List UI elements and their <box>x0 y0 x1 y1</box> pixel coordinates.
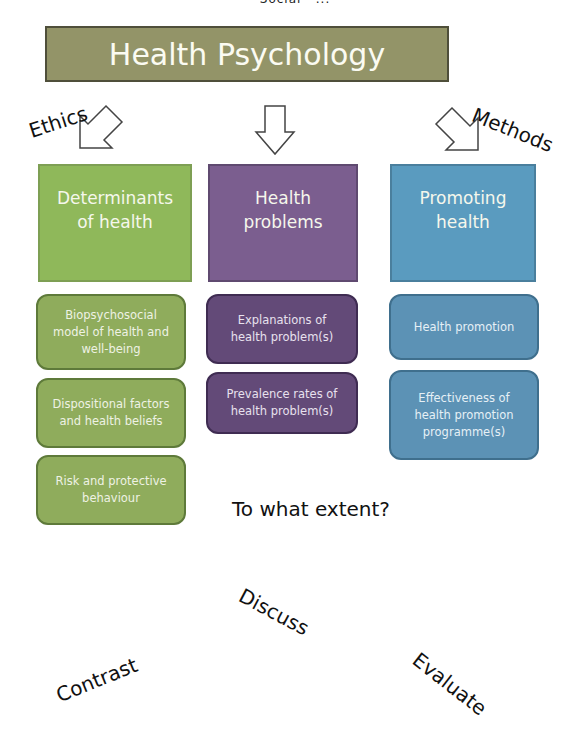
category-title-line: of health <box>40 210 190 234</box>
arrow-down-icon <box>254 104 296 156</box>
command-term-discuss: Discuss <box>235 584 313 641</box>
topic-line: Effectiveness of <box>414 390 513 407</box>
category-determinants-of-health: Determinants of health <box>38 164 192 282</box>
category-title-line: problems <box>210 210 356 234</box>
diagram-title: Health Psychology <box>45 26 449 82</box>
topic-line: Health promotion <box>414 319 515 336</box>
topic-line: programme(s) <box>414 424 513 441</box>
category-promoting-health: Promoting health <box>390 164 536 282</box>
topic-line: health problem(s) <box>231 329 334 346</box>
category-title-line: Health <box>210 186 356 210</box>
topic-line: Risk and protective <box>55 473 166 490</box>
clipped-top-text: Social · ... <box>170 0 420 4</box>
command-term-evaluate: Evaluate <box>408 648 492 721</box>
topic-line: behaviour <box>55 490 166 507</box>
topic-line: Dispositional factors <box>52 396 169 413</box>
topic-line: health problem(s) <box>227 403 338 420</box>
topic-line: Prevalence rates of <box>227 386 338 403</box>
topic-line: well-being <box>53 341 169 358</box>
category-title-line: health <box>392 210 534 234</box>
topic-dispositional-factors: Dispositional factors and health beliefs <box>36 378 186 448</box>
topic-biopsychosocial-model: Biopsychosocial model of health and well… <box>36 294 186 370</box>
category-title-line: Determinants <box>40 186 190 210</box>
topic-line: health promotion <box>414 407 513 424</box>
topic-line: and health beliefs <box>52 413 169 430</box>
category-health-problems: Health problems <box>208 164 358 282</box>
command-term-contrast: Contrast <box>53 653 141 707</box>
topic-health-promotion: Health promotion <box>389 294 539 360</box>
question-to-what-extent: To what extent? <box>232 497 390 521</box>
topic-explanations-of-health-problems: Explanations of health problem(s) <box>206 294 358 364</box>
topic-prevalence-rates: Prevalence rates of health problem(s) <box>206 372 358 434</box>
topic-line: Biopsychosocial <box>53 307 169 324</box>
topic-effectiveness-of-promotion: Effectiveness of health promotion progra… <box>389 370 539 460</box>
title-text: Health Psychology <box>109 37 385 72</box>
category-title-line: Promoting <box>392 186 534 210</box>
topic-line: Explanations of <box>231 312 334 329</box>
topic-line: model of health and <box>53 324 169 341</box>
topic-risk-and-protective-behaviour: Risk and protective behaviour <box>36 455 186 525</box>
